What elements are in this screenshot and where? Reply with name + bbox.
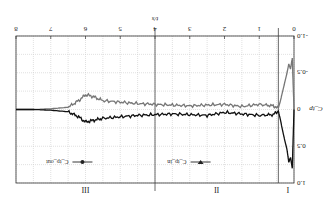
x-tick-label: 4 [153, 25, 157, 33]
x-axis-label: t/s [151, 15, 158, 23]
x-tick-label: 1 [257, 25, 261, 33]
y-tick-label: 1.0 [297, 179, 306, 187]
x-tick-label: 0 [292, 25, 296, 33]
line-chart: IIIIII012345678t/s-1.0-0.500.51.0C_tpC_t… [0, 0, 336, 207]
region-label: III [81, 185, 89, 194]
region-label: I [286, 185, 289, 194]
x-tick-label: 2 [222, 25, 226, 33]
y-axis-label: C_tp [309, 105, 323, 113]
x-tick-label: 7 [49, 25, 53, 33]
region-label: II [214, 185, 220, 194]
x-tick-label: 3 [188, 25, 192, 33]
x-tick-label: 5 [118, 25, 122, 33]
chart-figure: IIIIII012345678t/s-1.0-0.500.51.0C_tpC_t… [0, 0, 336, 207]
y-tick-label: -1.0 [297, 32, 309, 40]
y-tick-label: -0.5 [297, 68, 309, 76]
legend-marker-circle [80, 160, 84, 164]
y-tick-label: 0.5 [297, 142, 306, 150]
legend-label: C_tp_out [46, 159, 69, 165]
x-tick-label: 6 [83, 25, 87, 33]
y-tick-label: 0 [297, 105, 301, 113]
x-tick-label: 8 [14, 25, 18, 33]
legend-label: C_tp_in [167, 159, 186, 165]
